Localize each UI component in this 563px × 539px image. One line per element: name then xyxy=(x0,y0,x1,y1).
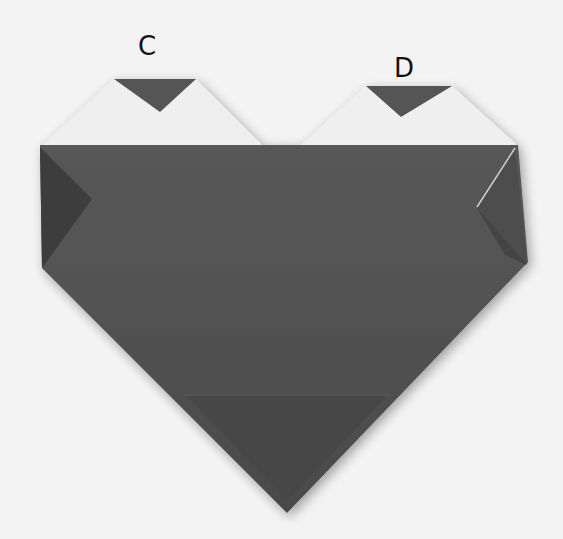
label-d: D xyxy=(394,55,414,81)
lower-fold-band xyxy=(186,395,388,500)
label-c: C xyxy=(138,33,156,59)
origami-heart xyxy=(0,0,563,539)
origami-illustration: C D xyxy=(0,0,563,539)
